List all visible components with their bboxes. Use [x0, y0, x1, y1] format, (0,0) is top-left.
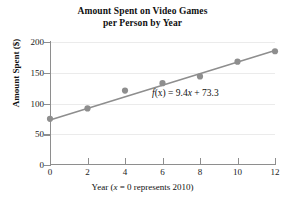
data-point — [272, 48, 278, 54]
equation-arg: (x) — [155, 88, 166, 98]
equation-rest: = 9.4 — [166, 88, 188, 98]
chart-figure: Amount Spent on Video Games per Person b… — [0, 0, 285, 203]
data-point — [197, 73, 203, 79]
data-point — [122, 87, 128, 93]
data-point — [234, 59, 240, 65]
equation-annotation: f(x) = 9.4x + 73.3 — [152, 88, 219, 98]
data-point — [47, 116, 53, 122]
equation-tail: + 73.3 — [192, 88, 219, 98]
data-series — [0, 0, 285, 203]
data-point — [159, 80, 165, 86]
data-point — [84, 105, 90, 111]
